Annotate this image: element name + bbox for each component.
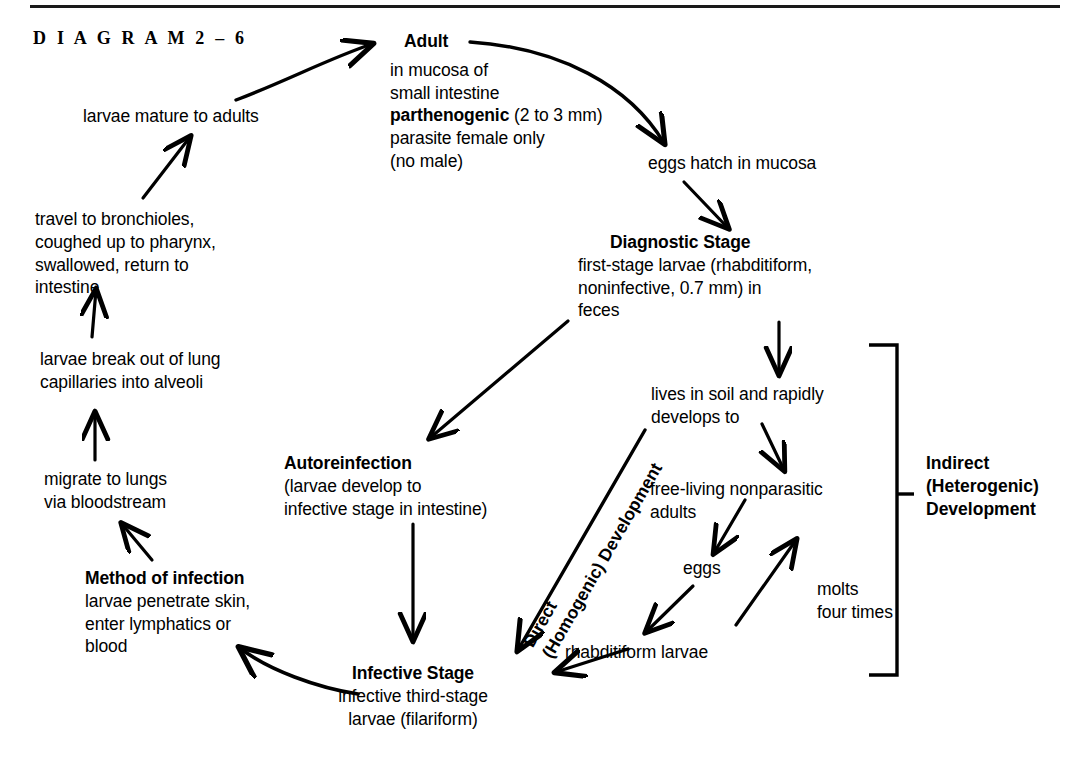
node-free-living-line-1: free-living nonparasitic [650, 478, 823, 501]
node-larvae-break-line-1: larvae break out of lung [40, 348, 221, 371]
node-free-living-line-2: adults [650, 501, 823, 524]
node-autoreinfection-line-1: (larvae develop to [284, 475, 487, 498]
node-eggs-hatch-in-mucosa: eggs hatch in mucosa [648, 152, 816, 175]
node-autoreinfection: Autoreinfection (larvae develop to infec… [284, 452, 487, 520]
node-lives-in-soil-line-1: lives in soil and rapidly [651, 383, 824, 406]
node-larvae-break-line-2: capillaries into alveoli [40, 371, 221, 394]
node-diagnostic-title: Diagnostic Stage [578, 231, 812, 254]
diagram-page: D I A G R A M 2 – 6 Adult in mucosa of s… [0, 0, 1078, 764]
node-method-line-2: enter lymphatics or [85, 613, 250, 636]
node-diagnostic-line-2: noninfective, 0.7 mm) in [578, 277, 812, 300]
node-infective-title: Infective Stage [305, 662, 521, 685]
node-migrate-line-1: migrate to lungs [44, 468, 167, 491]
node-molts-four-times: molts four times [817, 578, 893, 624]
node-larvae-mature-to-adults: larvae mature to adults [83, 105, 259, 128]
indirect-development-line-3: Development [926, 498, 1039, 521]
node-molts-line-1: molts [817, 578, 893, 601]
node-eggs-hatch-label: eggs hatch in mucosa [648, 152, 816, 175]
node-adult-line-1: in mucosa of [390, 59, 602, 82]
node-infective-stage: Infective Stage infective third-stage la… [305, 662, 521, 730]
arrow-travel-to-larvae-mature [143, 137, 190, 198]
node-free-living-adults: free-living nonparasitic adults [650, 478, 823, 524]
indirect-development-line-2: (Heterogenic) [926, 475, 1039, 498]
node-migrate-to-lungs: migrate to lungs via bloodstream [44, 468, 167, 514]
node-adult-line-4: parasite female only [390, 127, 602, 150]
node-rhabditiform-label: rhabditiform larvae [565, 641, 708, 664]
node-adult-parthenogenic: parthenogenic [390, 105, 509, 125]
arrow-eggs-hatch-to-diagnostic-stage [684, 182, 728, 228]
node-travel-line-4: intestine [35, 276, 216, 299]
node-method-line-1: larvae penetrate skin, [85, 590, 250, 613]
node-larvae-break-out: larvae break out of lung capillaries int… [40, 348, 221, 394]
node-eggs-label: eggs [683, 557, 721, 580]
node-infective-line-2: larvae (filariform) [305, 708, 521, 731]
indirect-development-line-1: Indirect [926, 452, 1039, 475]
arrow-lives-in-soil-to-free-living [762, 424, 784, 470]
node-adult-size: (2 to 3 mm) [509, 105, 602, 125]
node-method-of-infection: Method of infection larvae penetrate ski… [85, 567, 250, 658]
node-method-line-3: blood [85, 635, 250, 658]
node-larvae-mature-label: larvae mature to adults [83, 105, 259, 128]
node-autoreinfection-title: Autoreinfection [284, 452, 487, 475]
node-adult: Adult in mucosa of small intestine parth… [390, 30, 602, 173]
node-rhabditiform-larvae: rhabditiform larvae [565, 641, 708, 664]
indirect-development-bracket [869, 345, 897, 675]
node-autoreinfection-line-2: infective stage in intestine) [284, 498, 487, 521]
arrow-molts-four-times [736, 540, 796, 625]
node-infective-line-1: infective third-stage [305, 685, 521, 708]
figure-caption: D I A G R A M 2 – 6 [33, 28, 247, 49]
arrow-feces-to-autoreinfection [430, 321, 568, 438]
node-travel-to-bronchioles: travel to bronchioles, coughed up to pha… [35, 208, 216, 299]
node-travel-line-1: travel to bronchioles, [35, 208, 216, 231]
node-migrate-line-2: via bloodstream [44, 491, 167, 514]
node-eggs: eggs [683, 557, 721, 580]
node-adult-line-2: small intestine [390, 82, 602, 105]
node-adult-line-3: parthenogenic (2 to 3 mm) [390, 104, 602, 127]
node-adult-title: Adult [390, 30, 602, 53]
arrow-method-of-infection-to-migrate [122, 524, 152, 560]
node-diagnostic-stage: Diagnostic Stage first-stage larvae (rha… [578, 231, 812, 322]
node-diagnostic-line-3: feces [578, 299, 812, 322]
direct-development-line-1: Direct [518, 448, 648, 651]
arrow-larvae-mature-to-adult [236, 44, 372, 100]
arrow-eggs-to-rhabditiform-larvae [646, 586, 693, 632]
label-direct-homogenic-development: Direct (Homogenic) Development [518, 448, 667, 662]
node-lives-in-soil-line-2: develops to [651, 406, 824, 429]
node-adult-line-5: (no male) [390, 150, 602, 173]
node-method-title: Method of infection [85, 567, 250, 590]
direct-development-line-2: (Homogenic) Development [537, 459, 667, 662]
top-rule-divider [30, 5, 1060, 8]
label-indirect-heterogenic-development: Indirect (Heterogenic) Development [926, 452, 1039, 521]
node-diagnostic-line-1: first-stage larvae (rhabditiform, [578, 254, 812, 277]
node-lives-in-soil: lives in soil and rapidly develops to [651, 383, 824, 429]
node-travel-line-3: swallowed, return to [35, 254, 216, 277]
node-molts-line-2: four times [817, 601, 893, 624]
node-travel-line-2: coughed up to pharynx, [35, 231, 216, 254]
